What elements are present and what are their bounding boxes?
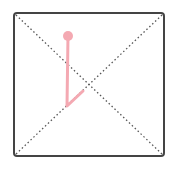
pink-stroke-start-dot	[63, 31, 73, 41]
diagram-canvas	[0, 0, 172, 170]
